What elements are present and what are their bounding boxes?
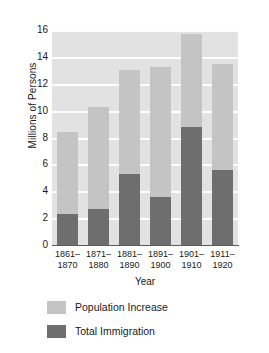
- y-tick-label: 6: [4, 159, 48, 169]
- x-tick-label-line: 1911–: [203, 249, 243, 260]
- x-axis-title: Year: [52, 276, 238, 287]
- y-tick-label: 12: [4, 79, 48, 89]
- bar-segment-total-immigration: [181, 127, 202, 245]
- bar-group: [150, 67, 171, 245]
- bar-group: [57, 132, 78, 245]
- chart-legend: Population IncreaseTotal Immigration: [47, 297, 247, 345]
- legend-label: Total Immigration: [75, 325, 155, 337]
- bar-group: [212, 64, 233, 245]
- bar-group: [119, 70, 140, 245]
- bar-segment-total-immigration: [150, 197, 171, 245]
- stacked-bar-chart: Millions of Persons 0246810121416 1861–1…: [0, 0, 269, 353]
- legend-swatch: [47, 325, 66, 338]
- y-axis-tick-labels: 0246810121416: [0, 0, 48, 353]
- legend-entry: Total Immigration: [47, 321, 247, 341]
- bar-segment-total-immigration: [57, 214, 78, 245]
- gridline: [52, 164, 238, 166]
- y-tick-label: 4: [4, 186, 48, 196]
- gridline: [52, 218, 238, 220]
- y-tick-label: 16: [4, 25, 48, 35]
- bar-group: [181, 34, 202, 245]
- plot-area: [52, 30, 238, 245]
- gridline: [52, 84, 238, 86]
- y-tick-label: 0: [4, 240, 48, 250]
- legend-swatch: [47, 301, 66, 314]
- gridline: [52, 138, 238, 140]
- legend-entry: Population Increase: [47, 297, 247, 317]
- x-axis-tick-labels: 1861–18701871–18801881–18901891–19001901…: [52, 249, 238, 279]
- bar-segment-total-immigration: [212, 170, 233, 245]
- x-axis-line: [52, 245, 239, 246]
- gridline: [52, 191, 238, 193]
- y-tick-label: 8: [4, 133, 48, 143]
- gridline: [52, 111, 238, 113]
- y-tick-label: 2: [4, 213, 48, 223]
- x-tick-label-line: 1920: [203, 260, 243, 271]
- y-tick-label: 14: [4, 52, 48, 62]
- bar-segment-total-immigration: [88, 209, 109, 245]
- x-tick-label: 1911–1920: [203, 249, 243, 271]
- gridline: [52, 30, 238, 32]
- bar-segment-total-immigration: [119, 174, 140, 245]
- bar-group: [88, 107, 109, 245]
- legend-label: Population Increase: [75, 301, 168, 313]
- gridline: [52, 57, 238, 59]
- y-tick-label: 10: [4, 106, 48, 116]
